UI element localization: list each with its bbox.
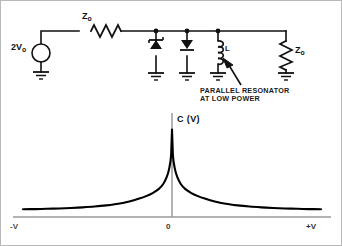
figure-root: 2Vo Zo L Zo PARALLEL RESONATORAT LOW POW… xyxy=(0,0,342,246)
diode-triangle xyxy=(181,40,193,49)
resistor-load-zigzag xyxy=(280,41,292,70)
ground-load xyxy=(278,73,294,80)
wire-source-to-resistor xyxy=(41,31,79,45)
annotation-text: PARALLEL RESONATORAT LOW POWER xyxy=(200,87,289,102)
ground-diode1 xyxy=(148,73,164,80)
node-dot-1 xyxy=(154,29,159,34)
annotation-arrow xyxy=(223,58,241,85)
diode-symbol xyxy=(180,40,194,50)
x-tick-label-positive: +V xyxy=(306,223,316,231)
inductor-symbol xyxy=(218,41,223,64)
ground-symbols xyxy=(33,72,294,80)
voltage-source-circle xyxy=(32,44,50,62)
inductor-label: L xyxy=(225,45,230,53)
cv-plot xyxy=(13,113,331,217)
ground-diode2 xyxy=(179,73,195,80)
annotation-arrow-head xyxy=(223,58,233,68)
ground-inductor xyxy=(210,73,226,80)
node-dot-3 xyxy=(216,29,221,34)
x-tick-label-zero: 0 xyxy=(166,223,170,231)
resistor-series-zigzag xyxy=(91,25,121,37)
series-resistor-label: Zo xyxy=(82,12,92,22)
diagram-canvas xyxy=(1,1,342,246)
ground-source xyxy=(33,72,49,79)
load-resistor-label: Zo xyxy=(295,46,305,56)
zener-diode-triangle xyxy=(150,40,162,49)
x-tick-label-negative: -V xyxy=(10,223,18,231)
annotation-line-2: AT LOW POWER xyxy=(200,94,260,103)
source-label: 2Vo xyxy=(11,43,26,53)
node-dot-2 xyxy=(185,29,190,34)
plot-y-axis-label: C (V) xyxy=(177,115,200,124)
